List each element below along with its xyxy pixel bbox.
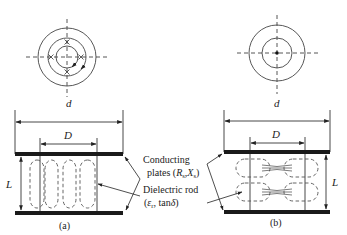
caption-a: (a)	[59, 220, 70, 232]
panel-b-side-view	[224, 110, 330, 212]
leader-conducting-b-bottom	[207, 164, 223, 210]
leader-dielectric-b	[207, 192, 242, 203]
label-conducting-line2: plates (Rs,Xs)	[147, 167, 199, 179]
label-D-b: D	[271, 128, 280, 140]
leader-dielectric-a	[98, 184, 140, 196]
center-dot	[275, 51, 279, 55]
label-dielectric-line2: (εr, tanδ)	[144, 197, 179, 209]
field-lines-connecting	[262, 165, 292, 195]
label-dielectric-line1: Dielectric rod	[143, 184, 198, 195]
leader-conducting-b-top	[207, 154, 222, 164]
leader-conducting-a-top	[125, 157, 140, 179]
dielectric-resonator-diagram: d D L (a) d D L (b) Conducting plates (R…	[0, 0, 347, 235]
panel-a-top-view	[26, 19, 108, 97]
panel-a-bottom-plate	[15, 211, 123, 215]
label-conducting-line1: Conducting	[143, 154, 190, 165]
panel-b-bottom-plate	[224, 210, 330, 214]
panel-b-top-plate	[224, 150, 330, 154]
label-D-a: D	[63, 129, 72, 141]
label-L-a: L	[5, 178, 12, 190]
panel-b-top-view	[237, 15, 318, 94]
panel-a-side-view	[15, 110, 123, 213]
label-d-a: d	[66, 97, 72, 109]
field-loops-horizontal	[236, 159, 318, 201]
caption-b: (b)	[270, 217, 282, 229]
label-L-b: L	[331, 176, 338, 188]
panel-a-top-plate	[15, 152, 123, 156]
label-d-b: d	[274, 97, 280, 109]
leader-conducting-a-bottom	[126, 179, 140, 210]
field-arrow-icon	[72, 63, 76, 67]
